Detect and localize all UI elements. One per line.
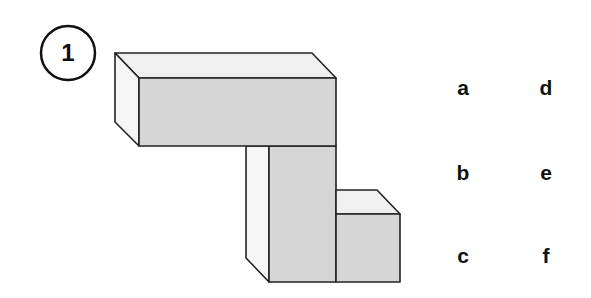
small-cube-front-face bbox=[336, 214, 400, 282]
vertical-block-side-face bbox=[246, 146, 269, 282]
small-cube-top-face bbox=[336, 190, 400, 214]
option-b[interactable]: b bbox=[457, 162, 470, 183]
option-f[interactable]: f bbox=[543, 245, 550, 266]
option-a[interactable]: a bbox=[457, 77, 469, 98]
option-d[interactable]: d bbox=[540, 77, 553, 98]
vertical-block-front-face bbox=[269, 146, 336, 282]
top-block-front-face bbox=[139, 78, 336, 146]
option-c[interactable]: c bbox=[457, 245, 469, 266]
top-block-top-face bbox=[115, 53, 336, 78]
option-e[interactable]: e bbox=[540, 162, 552, 183]
question-number: 1 bbox=[41, 26, 95, 80]
